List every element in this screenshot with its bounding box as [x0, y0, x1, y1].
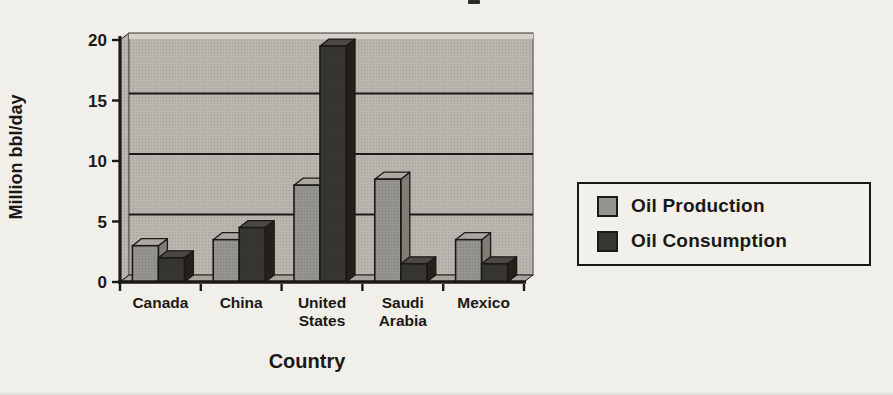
wall-top-highlight: [129, 34, 533, 39]
scanned-chart-page: 05101520CanadaChinaUnitedStatesSaudiArab…: [0, 0, 893, 395]
production-color-swatch: [597, 196, 618, 217]
category-label: Canada: [132, 294, 188, 311]
bar-texture: [239, 228, 265, 282]
legend-label-production: Oil Production: [631, 195, 765, 217]
legend-item-consumption: Oil Consumption: [597, 230, 859, 252]
category-label: Arabia: [379, 312, 428, 329]
category-label: Saudi: [382, 294, 424, 311]
bar-texture: [456, 240, 482, 282]
bar-side-1: [265, 221, 274, 282]
chart-legend: Oil Production Oil Consumption: [577, 182, 871, 266]
category-label: Mexico: [457, 294, 510, 311]
bar-texture: [213, 240, 239, 282]
category-label: States: [299, 312, 346, 329]
bar-texture: [320, 46, 346, 282]
bar-texture: [375, 179, 401, 282]
category-label: United: [298, 294, 346, 311]
bar-texture: [294, 185, 320, 282]
legend-label-consumption: Oil Consumption: [631, 230, 787, 252]
y-tick-label: 10: [88, 152, 107, 171]
bar-texture: [401, 264, 427, 282]
bar-texture: [158, 258, 184, 282]
x-axis-title: Country: [269, 350, 347, 372]
y-axis-title: Million bbl/day: [6, 95, 26, 220]
bar-texture: [132, 246, 158, 282]
y-tick-label: 5: [98, 213, 107, 232]
y-tick-label: 20: [88, 31, 107, 50]
bar-side-1: [346, 39, 355, 282]
bar-texture: [482, 264, 508, 282]
category-label: China: [220, 294, 263, 311]
consumption-color-swatch: [597, 231, 618, 252]
y-tick-label: 0: [98, 273, 107, 292]
bar-chart: 05101520CanadaChinaUnitedStatesSaudiArab…: [0, 0, 600, 395]
y-tick-label: 15: [88, 92, 107, 111]
legend-item-production: Oil Production: [597, 195, 859, 217]
